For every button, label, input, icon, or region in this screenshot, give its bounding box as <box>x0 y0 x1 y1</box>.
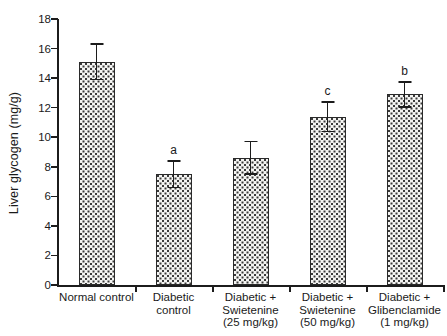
x-axis-tick-mark <box>366 285 368 292</box>
error-bar-cap-upper <box>398 81 411 83</box>
error-bar <box>250 142 252 175</box>
bar <box>79 62 115 285</box>
error-bar-cap-lower <box>244 173 257 175</box>
x-axis-tick-mark <box>212 285 214 292</box>
error-bar <box>327 102 329 132</box>
x-axis-tick-mark <box>289 285 291 292</box>
error-bar-cap-upper <box>321 101 334 103</box>
error-bar <box>404 82 406 107</box>
x-axis-end-tick-mark <box>443 285 445 292</box>
plot-area: acb <box>58 19 443 285</box>
y-axis-tick-mark <box>51 77 58 79</box>
y-axis-title: Liver glycogen (mg/g) <box>7 43 21 263</box>
error-bar-cap-lower <box>167 187 180 189</box>
error-bar-cap-lower <box>90 79 103 81</box>
y-axis-tick-label: 14 <box>38 73 51 83</box>
y-axis-tick-mark <box>51 225 58 227</box>
y-axis-tick-mark <box>51 18 58 20</box>
error-bar-cap-upper <box>90 43 103 45</box>
y-axis-tick-label: 18 <box>38 14 51 24</box>
x-axis-line <box>58 285 445 287</box>
y-axis-tick-mark <box>51 48 58 50</box>
y-axis-tick-label: 10 <box>38 132 51 142</box>
bar <box>387 94 423 285</box>
error-bar <box>96 44 98 79</box>
y-axis-tick-label: 12 <box>38 103 51 113</box>
error-bar-cap-lower <box>321 131 334 133</box>
y-axis-tick-labels: 024681012141618 <box>20 0 51 336</box>
y-axis-tick-mark <box>51 107 58 109</box>
y-axis-tick-mark <box>51 196 58 198</box>
y-axis-tick-mark <box>51 284 58 286</box>
bar <box>156 174 192 285</box>
y-axis-tick-mark <box>51 255 58 257</box>
significance-label: b <box>401 65 408 77</box>
y-axis-tick-label: 16 <box>38 44 51 54</box>
x-axis-tick-mark <box>135 285 137 292</box>
error-bar-cap-upper <box>167 160 180 162</box>
bar <box>233 158 269 285</box>
error-bar-cap-upper <box>244 141 257 143</box>
bar <box>310 117 346 285</box>
significance-label: c <box>325 85 331 97</box>
x-axis-tick-label: Diabetic + Glibenclamide (1 mg/kg) <box>359 291 447 329</box>
y-axis-tick-mark <box>51 166 58 168</box>
error-bar-cap-lower <box>398 106 411 108</box>
liver-glycogen-bar-chart: Liver glycogen (mg/g) 024681012141618 ac… <box>0 0 447 336</box>
error-bar <box>173 161 175 188</box>
significance-label: a <box>170 144 177 156</box>
y-axis-tick-mark <box>51 136 58 138</box>
